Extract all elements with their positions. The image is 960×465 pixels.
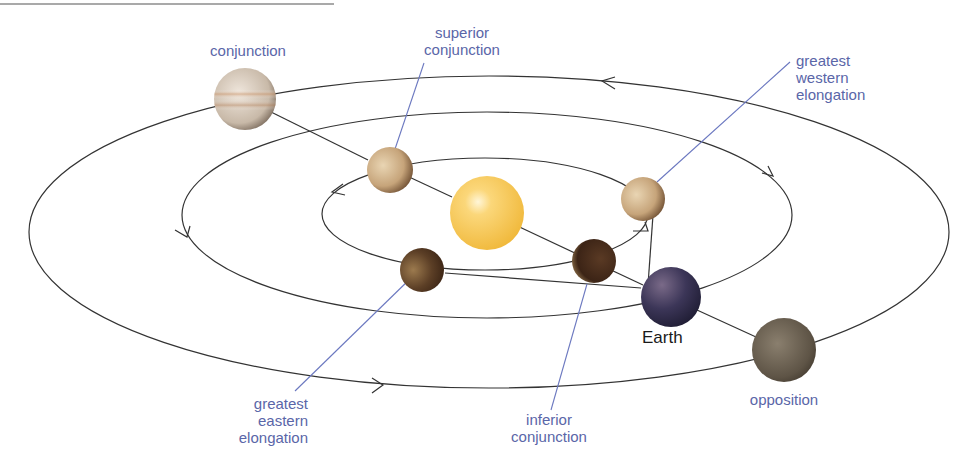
label-earth: Earth [642, 329, 683, 347]
label-line: conjunction [494, 428, 604, 445]
label-opposition: opposition [736, 391, 832, 408]
label-line: conjunction [404, 41, 520, 58]
label-conjunction: conjunction [196, 42, 300, 59]
label-line: conjunction [196, 42, 300, 59]
label-line: greatest [214, 395, 308, 412]
label-greatest-eastern-elongation: greatest eastern elongation [214, 395, 308, 446]
label-line: elongation [796, 86, 865, 103]
earth [641, 267, 701, 327]
label-line: opposition [736, 391, 832, 408]
label-superior-conjunction: superior conjunction [404, 24, 520, 58]
label-inferior-conjunction: inferior conjunction [494, 411, 604, 445]
venus-greatest-eastern-elongation [400, 248, 444, 292]
sun [450, 176, 524, 250]
label-line: greatest [796, 52, 865, 69]
superior-planet-opposition [752, 318, 816, 382]
venus-superior-conjunction [367, 147, 413, 193]
label-line: elongation [214, 429, 308, 446]
venus-inferior-conjunction [572, 239, 616, 283]
jupiter-conjunction [214, 68, 276, 130]
label-line: western [796, 69, 865, 86]
planetary-configurations-diagram: conjunction superior conjunction greates… [0, 0, 960, 465]
label-line: superior [404, 24, 520, 41]
venus-greatest-western-elongation [621, 177, 665, 221]
label-greatest-western-elongation: greatest western elongation [796, 52, 865, 103]
label-line: Earth [642, 329, 683, 347]
label-line: inferior [494, 411, 604, 428]
label-line: eastern [214, 412, 308, 429]
